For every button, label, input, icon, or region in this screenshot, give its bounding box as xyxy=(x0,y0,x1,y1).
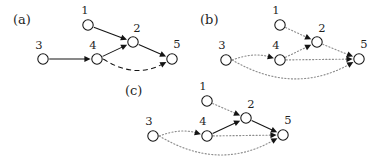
node-label-a-3: 3 xyxy=(35,38,42,52)
node-a-4[interactable] xyxy=(92,54,102,64)
edge-b-3-to-4 xyxy=(232,55,269,60)
node-label-c-5: 5 xyxy=(284,113,291,127)
edge-b-1-to-2 xyxy=(286,28,307,38)
edge-b-3-to-5-arrowhead xyxy=(347,62,354,68)
edge-c-2-to-5 xyxy=(252,121,273,131)
node-a-3[interactable] xyxy=(38,54,48,64)
node-c-4[interactable] xyxy=(202,131,212,141)
node-b-4[interactable] xyxy=(275,55,285,65)
node-c-5[interactable] xyxy=(278,130,288,140)
edge-c-3-to-4-arrowhead xyxy=(194,130,201,136)
node-b-3[interactable] xyxy=(221,55,231,65)
edge-a-2-to-5 xyxy=(139,44,162,54)
node-label-a-1: 1 xyxy=(81,3,88,17)
edge-b-3-to-5 xyxy=(232,60,349,79)
panel-label-c: (c) xyxy=(125,83,142,98)
node-a-2[interactable] xyxy=(128,37,138,47)
node-label-b-1: 1 xyxy=(272,3,279,17)
panel-label-b: (b) xyxy=(200,12,218,27)
edge-a-4-to-5 xyxy=(103,59,162,71)
node-label-a-2: 2 xyxy=(133,21,140,35)
edge-c-1-to-2 xyxy=(213,103,236,113)
node-a-1[interactable] xyxy=(83,20,93,30)
node-label-c-2: 2 xyxy=(247,97,254,111)
node-label-b-3: 3 xyxy=(218,38,225,52)
node-label-a-5: 5 xyxy=(173,37,180,51)
panel-c: (c)12345 xyxy=(125,79,292,155)
node-c-1[interactable] xyxy=(202,96,212,106)
node-b-1[interactable] xyxy=(275,20,285,30)
node-c-2[interactable] xyxy=(241,113,251,123)
edge-b-3-to-4-arrowhead xyxy=(267,54,274,60)
node-b-2[interactable] xyxy=(312,37,322,47)
panel-label-a: (a) xyxy=(13,12,31,27)
edge-c-4-to-2 xyxy=(213,123,236,134)
edge-a-4-to-2 xyxy=(103,47,123,56)
node-c-3[interactable] xyxy=(148,131,158,141)
edge-b-2-to-5 xyxy=(323,44,349,54)
node-label-c-3: 3 xyxy=(145,114,152,128)
edge-c-4-to-5 xyxy=(213,135,271,136)
edge-b-4-to-2-arrowhead xyxy=(304,45,311,50)
edge-c-4-to-5-arrowhead xyxy=(270,132,276,138)
edge-c-3-to-4 xyxy=(159,131,196,136)
node-label-b-4: 4 xyxy=(272,38,279,52)
edge-a-1-to-2 xyxy=(94,27,123,38)
figure-canvas: (a)12345(b)12345(c)12345 xyxy=(0,0,378,156)
edge-b-4-to-5 xyxy=(286,59,347,60)
panel-b: (b)12345 xyxy=(200,3,368,79)
edge-b-4-to-2 xyxy=(286,47,307,57)
node-b-5[interactable] xyxy=(354,54,364,64)
node-label-b-2: 2 xyxy=(318,21,325,35)
edge-c-3-to-5 xyxy=(159,136,273,155)
panel-a: (a)12345 xyxy=(13,3,181,71)
node-label-b-5: 5 xyxy=(360,37,367,51)
node-label-c-1: 1 xyxy=(199,79,206,93)
edge-b-1-to-2-arrowhead xyxy=(304,34,311,39)
node-a-5[interactable] xyxy=(167,54,177,64)
node-label-c-4: 4 xyxy=(199,114,206,128)
node-label-a-4: 4 xyxy=(89,38,96,52)
graph-figure-svg: (a)12345(b)12345(c)12345 xyxy=(0,0,378,156)
edge-a-3-to-4-arrowhead xyxy=(84,56,90,62)
edge-b-4-to-5-arrowhead xyxy=(346,56,352,62)
